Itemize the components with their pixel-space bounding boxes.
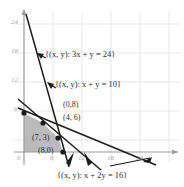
equation-label-3x-plus-y-24: {(x, y): 3x + y = 24} [45,49,115,59]
y-tick-label-6: 6 [14,105,18,113]
x-tick-label-18: 18 [107,154,114,162]
y-tick-label-18: 18 [11,47,18,55]
vertex-point-4-6 [40,120,45,125]
x-tick-label-12: 12 [78,154,85,162]
equation-label-x-plus-y-10: {(x, y): x + y = 10} [55,79,121,89]
point-label-4-6: (4, 6) [63,113,80,122]
x-axis-arrow [172,150,178,155]
y-tick-label-12: 12 [11,76,18,84]
point-label-0-8: (0,8) [63,100,78,109]
vertex-point-8-0 [60,149,65,154]
x-tick-label-0: 0 [17,154,21,162]
x-tick-label-24: 24 [136,154,143,162]
vertex-point-7-3 [55,135,60,140]
equation-label-x-plus-2y-16: {(x, y): x + 2y = 16} [57,170,127,180]
plot-canvas [0,0,184,187]
point-label-8-0: (8,0) [38,146,53,155]
point-label-7-3: (7, 3) [32,133,49,142]
x-tick-label-6: 6 [50,154,54,162]
linear-programming-graph: 24 18 12 6 0 6 12 18 24 {(x, y): 3x + y … [0,0,184,187]
y-tick-label-24: 24 [11,18,18,26]
arrowhead-bottom-mid [84,152,92,166]
vertex-point-0-8 [21,110,26,115]
